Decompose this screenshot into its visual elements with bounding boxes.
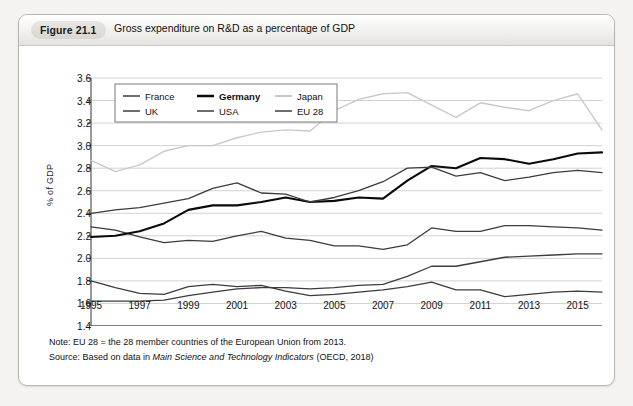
- source-prefix: Source: Based on data in: [49, 352, 150, 362]
- figure-number-tag: Figure 21.1: [31, 21, 106, 39]
- source-text: Source: Based on data in Main Science an…: [49, 350, 589, 365]
- x-tick-label: 2013: [518, 300, 540, 311]
- x-tick-label: 2011: [470, 300, 492, 311]
- x-tick-label: 2005: [323, 300, 345, 311]
- chart-area: % of GDP 1.41.61.82.02.22.42.62.83.03.23…: [19, 46, 614, 326]
- figure-title-bar: Figure 21.1 Gross expenditure on R&D as …: [19, 15, 614, 46]
- note-body: the 28 member countries of the European …: [108, 337, 346, 347]
- x-tick-label: 1995: [80, 300, 102, 311]
- figure-notes: Note: EU 28 = the 28 member countries of…: [49, 335, 589, 365]
- note-prefix: Note: EU 28: [49, 337, 98, 347]
- source-publication-title: Main Science and Technology Indicators: [153, 352, 314, 362]
- x-tick-label: 2001: [226, 300, 248, 311]
- note-equals-sign: =: [101, 337, 106, 347]
- x-tick-label: 1997: [129, 300, 151, 311]
- screenshot-root: Figure 21.1 Gross expenditure on R&D as …: [0, 0, 633, 406]
- x-tick-label: 2015: [567, 300, 589, 311]
- x-tick-label: 2009: [421, 300, 443, 311]
- x-tick-label: 1999: [177, 300, 199, 311]
- note-text: Note: EU 28 = the 28 member countries of…: [49, 335, 589, 350]
- figure-card: Figure 21.1 Gross expenditure on R&D as …: [18, 14, 615, 386]
- x-axis-tick-labels: 1995199719992001200320052007200920112013…: [19, 46, 614, 326]
- source-suffix: (OECD, 2018): [316, 352, 373, 362]
- x-tick-label: 2007: [372, 300, 394, 311]
- figure-title: Gross expenditure on R&D as a percentage…: [114, 22, 355, 34]
- x-tick-label: 2003: [275, 300, 297, 311]
